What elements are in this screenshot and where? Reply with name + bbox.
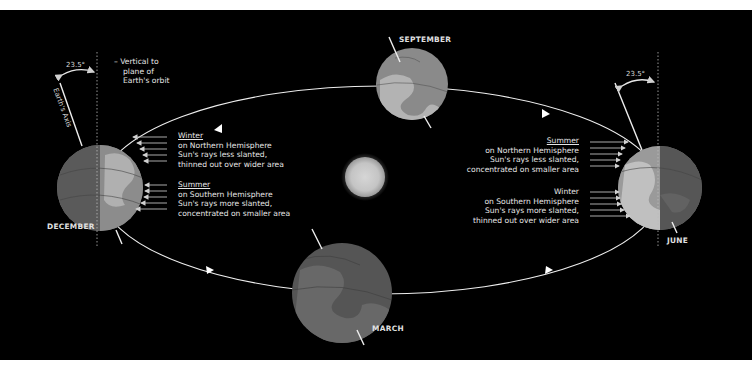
december-north-note: Winter on Northern Hemisphere Sun's rays… [178, 131, 284, 169]
earth-june [615, 52, 702, 248]
december-south-note: Summer on Southern Hemisphere Sun's rays… [178, 180, 290, 218]
tilt-angle-june: 23.5° [626, 70, 645, 78]
june-north-note: Summer on Northern Hemisphere Sun's rays… [467, 136, 579, 174]
tilt-angle-december: 23.5° [66, 61, 85, 69]
seasons-diagram [0, 0, 752, 367]
label-june: JUNE [667, 236, 688, 245]
label-march: MARCH [372, 324, 404, 333]
vertical-orbit-note: – Vertical to plane of Earth's orbit [114, 57, 170, 86]
sun-icon [341, 153, 389, 201]
earth-september [376, 37, 448, 128]
june-south-note: Winter on Southern Hemisphere Sun's rays… [473, 187, 579, 225]
label-december: DECEMBER [47, 222, 95, 231]
label-september: SEPTEMBER [399, 35, 451, 44]
